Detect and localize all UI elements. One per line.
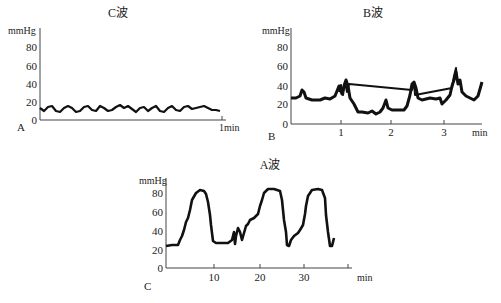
- panel-a-xlabel: 1min: [219, 122, 240, 133]
- tick: 60: [277, 60, 289, 72]
- panel-c-line: [166, 189, 334, 246]
- tick: 60: [152, 206, 164, 218]
- tick: 30: [299, 271, 311, 283]
- panel-c-ylabel: mmHg: [139, 175, 167, 186]
- tick: 0: [32, 114, 38, 126]
- tick: 40: [152, 225, 164, 237]
- tick: 3: [441, 126, 447, 138]
- tick: 40: [277, 80, 289, 92]
- tick: 10: [209, 271, 221, 283]
- panel-c-label: C: [144, 280, 151, 292]
- panel-c-title: A波: [260, 158, 281, 172]
- panel-b-title: B波: [363, 6, 383, 20]
- panel-b: B波 mmHg 0 20 40 60 80 1 2 3 min B: [262, 6, 488, 142]
- tick: 20: [255, 271, 267, 283]
- panel-c: A波 mmHg 0 20 40 60 80 10 20 30 min C: [139, 158, 373, 292]
- tick: 1: [338, 126, 344, 138]
- panel-b-label: B: [268, 130, 275, 142]
- tick: 80: [152, 187, 164, 199]
- tick: 60: [26, 60, 38, 72]
- tick: 0: [283, 118, 289, 130]
- panel-a: C波 mmHg 0 20 40 60 80 1min A: [8, 6, 240, 133]
- tick: 20: [152, 244, 164, 256]
- panel-b-xlabel: min: [472, 127, 488, 138]
- tick: 2: [388, 126, 394, 138]
- tick: 80: [26, 41, 38, 53]
- figure: C波 mmHg 0 20 40 60 80 1min A B波 mmHg 0 2…: [0, 0, 501, 303]
- panel-a-label: A: [17, 121, 25, 133]
- tick: 20: [277, 98, 289, 110]
- tick: 40: [26, 78, 38, 90]
- panel-c-xlabel: min: [357, 272, 373, 283]
- panel-b-ylabel: mmHg: [262, 25, 290, 36]
- panel-a-ylabel: mmHg: [8, 25, 36, 36]
- panel-a-title: C波: [108, 6, 128, 20]
- panel-a-line: [40, 105, 220, 112]
- tick: 20: [26, 96, 38, 108]
- tick: 0: [158, 262, 164, 274]
- tick: 80: [277, 41, 289, 53]
